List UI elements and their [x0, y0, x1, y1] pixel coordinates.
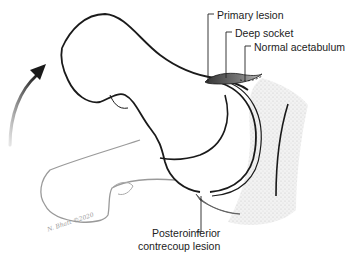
label-primary-lesion: Primary lesion [217, 9, 284, 22]
hip-lesion-diagram: Primary lesion Deep socket Normal acetab… [0, 0, 346, 260]
femoral-head-inner-curve [160, 95, 228, 159]
leader-primary-lesion [208, 14, 214, 82]
label-posteroinferior-line1: Posteroinferior [138, 227, 220, 240]
label-posteroinferior-line2: contrecoup lesion [138, 240, 220, 253]
ghost-femur-outline [41, 140, 175, 222]
label-deep-socket: Deep socket [235, 27, 293, 40]
rotation-arrow-shaft [10, 75, 37, 145]
leader-deep-socket [226, 32, 232, 78]
contrecoup-lesion-shade [196, 194, 240, 214]
acetabulum-stipple-region [228, 78, 308, 225]
label-posteroinferior-contrecoup: Posteroinferior contrecoup lesion [138, 227, 220, 253]
primary-lesion-shade [205, 73, 262, 84]
ghost-trochanter-detail [112, 182, 133, 194]
illustration-canvas [0, 0, 346, 260]
femur-left-contour [61, 48, 200, 192]
label-normal-acetabulum: Normal acetabulum [254, 41, 345, 54]
